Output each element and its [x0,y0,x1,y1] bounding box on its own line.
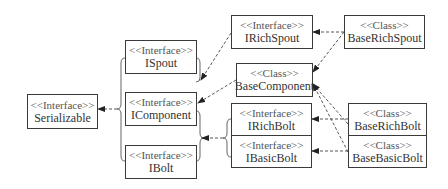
node-baserichspout: <<Class>> BaseRichSpout [344,15,425,49]
class-name: Serializable [34,112,91,125]
stereotype-label: <<Interface>> [240,107,304,120]
stereotype-label: <<Interface>> [240,139,304,152]
node-icomponent: <<Interface>> IComponent [125,92,197,126]
node-irichbolt: <<Interface>> IRichBolt [231,103,312,136]
edge-baserichspout-to-basecomponent [313,32,344,72]
class-name: IRichSpout [245,32,300,45]
node-irichspout: <<Interface>> IRichSpout [231,15,313,49]
class-name: BaseBasicBolt [352,152,423,165]
class-name: IComponent [131,109,191,122]
node-basecomponent: <<Class>> BaseComponent [236,63,313,97]
class-name: IBolt [149,162,174,175]
edge-basecomponent-to-icomponent [198,80,236,103]
node-baserichbolt: <<Class>> BaseRichBolt [348,103,427,136]
node-ispout: <<Interface>> ISpout [125,40,197,74]
stereotype-label: <<Interface>> [31,99,95,112]
class-name: BaseRichSpout [348,32,422,45]
edge-irichspout-to-ispout [201,33,231,80]
node-basebasicbolt: <<Class>> BaseBasicBolt [348,135,427,168]
edge-baserichbolt-to-basecomponent [313,84,348,124]
node-serializable: <<Interface>> Serializable [27,94,98,129]
class-name: IBasicBolt [246,152,297,165]
brace-right-component-bolt [196,111,204,161]
class-name: IRichBolt [248,120,295,133]
brace-left-interfaces [117,58,125,161]
class-name: BaseRichBolt [354,120,421,133]
class-name: ISpout [145,57,177,70]
node-ibolt: <<Interface>> IBolt [125,145,197,179]
brace-richbolt-basicbolt [223,119,231,157]
stereotype-label: <<Class>> [363,107,412,120]
class-name: BaseComponent [235,80,314,93]
node-ibasicbolt: <<Interface>> IBasicBolt [231,135,312,168]
stereotype-label: <<Class>> [363,139,412,152]
